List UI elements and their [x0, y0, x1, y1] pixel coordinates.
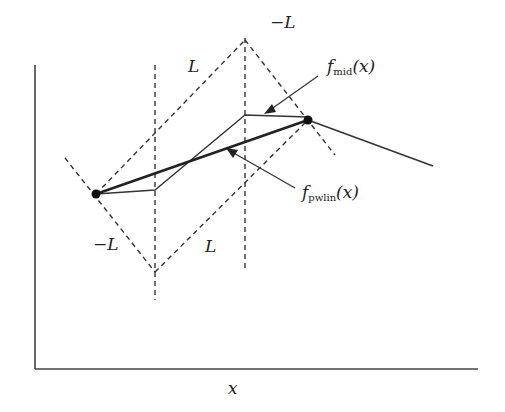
- f-mid-arg: (x): [352, 56, 375, 76]
- label-f-pwlin: fpwlin(x): [302, 184, 359, 203]
- label-negL-bottom: −L: [93, 236, 119, 253]
- f-pwlin-arg: (x): [336, 182, 359, 202]
- f-pwlin-subscript: pwlin: [308, 192, 336, 203]
- x-axis-label: x: [228, 380, 238, 397]
- point-left: [92, 190, 101, 199]
- f-pwlin-segment: [96, 120, 308, 194]
- label-f-mid: fmid(x): [327, 58, 375, 77]
- diagram-canvas: [0, 0, 505, 412]
- label-L-top: L: [188, 58, 199, 75]
- f-pwlin-arrowhead: [226, 148, 238, 158]
- f-pwlin-arrow-line: [232, 152, 295, 188]
- f-mid-arrow-line: [270, 76, 318, 110]
- label-L-bottom: L: [205, 238, 216, 255]
- f-mid-subscript: mid: [333, 66, 352, 77]
- bound-dashed-4: [155, 120, 308, 272]
- f-mid-arrowhead: [264, 104, 276, 114]
- bound-dashed-2: [96, 40, 245, 194]
- f-continuation: [308, 120, 433, 166]
- bound-dashed-1: [65, 158, 155, 272]
- label-negL-top: −L: [270, 14, 296, 31]
- point-right: [304, 116, 313, 125]
